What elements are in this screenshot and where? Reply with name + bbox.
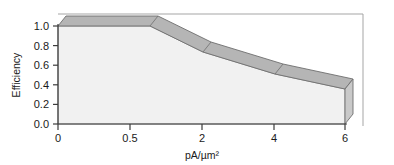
y-tick-label: 0.6 [34, 59, 49, 71]
y-tick-label: 1.0 [34, 20, 49, 32]
y-tick-label: 0.8 [34, 40, 49, 52]
x-axis [58, 124, 347, 130]
x-tick-label: 6 [342, 132, 348, 144]
x-tick-label: 0.5 [122, 132, 137, 144]
x-tick-labels: 0 0.5 2 4 6 [55, 132, 348, 144]
x-tick-label: 0 [55, 132, 61, 144]
x-tick-label: 2 [199, 132, 205, 144]
y-tick-label: 0.0 [34, 118, 49, 130]
y-tick-label: 0.2 [34, 98, 49, 110]
x-tick-label: 4 [271, 132, 277, 144]
x-axis-title: pA/µm² [185, 149, 220, 161]
y-tick-label: 0.4 [34, 79, 49, 91]
efficiency-area-chart: 1.0 0.8 0.6 0.4 0.2 0.0 0 0.5 2 4 6 pA/µ… [0, 0, 394, 165]
y-tick-labels: 1.0 0.8 0.6 0.4 0.2 0.0 [34, 20, 49, 130]
y-axis-title: Efficiency [10, 52, 22, 97]
chart-container: 1.0 0.8 0.6 0.4 0.2 0.0 0 0.5 2 4 6 pA/µ… [0, 0, 394, 165]
y-axis [53, 24, 58, 124]
